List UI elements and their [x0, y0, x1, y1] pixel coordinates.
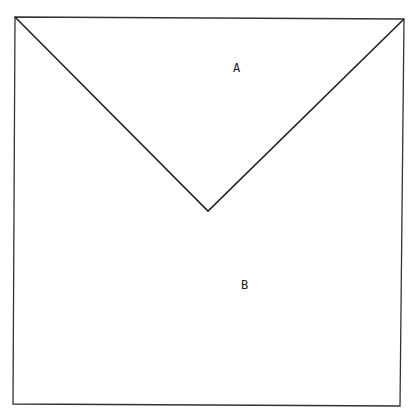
v-divider [15, 17, 404, 211]
diagram-canvas [0, 0, 412, 415]
region-label-a: A [233, 61, 240, 75]
region-label-b: B [241, 278, 248, 292]
